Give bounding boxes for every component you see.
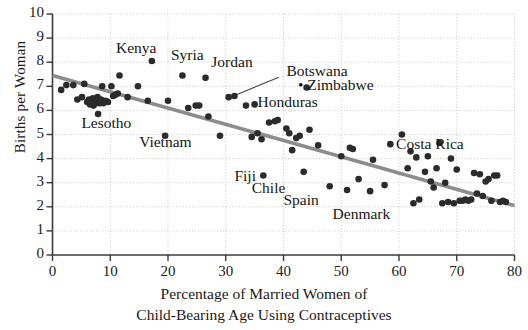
plot-canvas <box>0 0 528 330</box>
grid-lines <box>53 14 515 255</box>
annotation-leader-line <box>230 77 279 97</box>
scatter-plot-figure: 01020304050607080 012345678910 KenyaSyri… <box>0 0 528 330</box>
tick-marks <box>47 14 515 261</box>
